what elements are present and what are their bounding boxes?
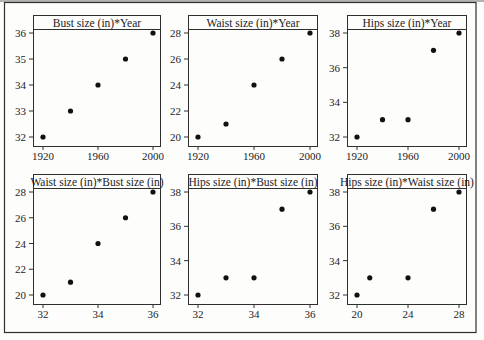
y-tick-label: 34 — [329, 255, 341, 267]
y-tick-label: 32 — [170, 289, 181, 301]
data-point — [456, 189, 461, 194]
data-point — [279, 207, 284, 212]
data-point — [95, 82, 100, 87]
data-point — [405, 117, 410, 122]
y-tick-label: 24 — [170, 79, 182, 91]
data-point — [223, 275, 228, 280]
y-tick-label: 33 — [15, 105, 27, 117]
plot-area — [348, 30, 467, 147]
plot-area — [189, 189, 318, 305]
x-tick-label: 20 — [352, 308, 364, 320]
plot-area — [34, 30, 161, 147]
data-point — [95, 241, 100, 246]
data-point — [354, 134, 359, 139]
data-point — [367, 275, 372, 280]
y-tick-label: 22 — [15, 263, 26, 275]
plot-area — [34, 189, 161, 305]
y-tick-label: 34 — [15, 79, 27, 91]
y-tick-label: 26 — [170, 53, 182, 65]
plot-area — [348, 189, 467, 305]
y-tick-label: 32 — [329, 131, 340, 143]
x-tick-label: 36 — [305, 308, 317, 320]
y-tick-label: 32 — [329, 289, 340, 301]
y-tick-label: 22 — [170, 105, 181, 117]
panel-title: Hips size (in)*Bust size (in) — [188, 176, 317, 189]
y-tick-label: 28 — [170, 27, 182, 39]
data-point — [307, 30, 312, 35]
data-point — [68, 280, 73, 285]
data-point — [251, 82, 256, 87]
y-tick-label: 24 — [15, 238, 27, 250]
x-tick-label: 34 — [93, 308, 105, 320]
y-tick-label: 36 — [170, 220, 182, 232]
plot-area — [189, 30, 318, 147]
y-tick-label: 20 — [15, 289, 27, 301]
data-point — [405, 275, 410, 280]
data-point — [307, 189, 312, 194]
x-tick-label: 1960 — [87, 150, 110, 162]
y-tick-label: 35 — [15, 53, 27, 65]
panel-hips-size-in-year: Hips size (in)*Year32343638192019602000 — [329, 16, 471, 163]
panel-title: Hips size (in)*Year — [363, 17, 452, 30]
data-point — [431, 207, 436, 212]
panel-waist-size-in-bust-size-in: Waist size (in)*Bust size (in)2022242628… — [15, 175, 164, 321]
data-point — [195, 134, 200, 139]
panel-title: Waist size (in)*Year — [206, 17, 299, 30]
y-tick-label: 34 — [170, 255, 182, 267]
y-tick-label: 28 — [15, 186, 27, 198]
data-point — [123, 215, 128, 220]
panel-title: Waist size (in)*Bust size (in) — [30, 176, 163, 189]
x-tick-label: 1960 — [397, 150, 420, 162]
scatter-plot-matrix: Bust size (in)*Year323334353619201960200… — [0, 0, 484, 340]
x-tick-label: 2000 — [299, 150, 322, 162]
x-tick-label: 28 — [454, 308, 466, 320]
data-point — [223, 121, 228, 126]
y-tick-label: 32 — [15, 131, 26, 143]
x-tick-label: 32 — [193, 308, 204, 320]
y-tick-label: 36 — [15, 27, 27, 39]
x-tick-label: 32 — [38, 308, 49, 320]
scatter-matrix-svg: Bust size (in)*Year323334353619201960200… — [0, 0, 484, 340]
y-tick-label: 38 — [170, 186, 182, 198]
panel-hips-size-in-waist-size-in: Hips size (in)*Waist size (in)3234363820… — [329, 175, 474, 321]
x-tick-label: 2000 — [142, 150, 165, 162]
x-tick-label: 24 — [403, 308, 415, 320]
panel-title: Bust size (in)*Year — [53, 17, 141, 30]
data-point — [431, 48, 436, 53]
data-point — [150, 189, 155, 194]
y-tick-label: 36 — [329, 220, 341, 232]
data-point — [150, 30, 155, 35]
x-tick-label: 2000 — [448, 150, 471, 162]
y-tick-label: 26 — [15, 212, 27, 224]
y-tick-label: 38 — [329, 27, 341, 39]
panel-waist-size-in-year: Waist size (in)*Year20222426281920196020… — [170, 16, 322, 163]
x-tick-label: 1960 — [243, 150, 266, 162]
data-point — [40, 292, 45, 297]
data-point — [68, 108, 73, 113]
y-tick-label: 36 — [329, 62, 341, 74]
x-tick-label: 34 — [249, 308, 261, 320]
y-tick-label: 20 — [170, 131, 182, 143]
data-point — [195, 292, 200, 297]
panel-bust-size-in-year: Bust size (in)*Year323334353619201960200… — [15, 16, 165, 163]
x-tick-label: 1920 — [346, 150, 369, 162]
y-tick-label: 38 — [329, 186, 341, 198]
data-point — [40, 134, 45, 139]
data-point — [279, 56, 284, 61]
x-tick-label: 1920 — [187, 150, 210, 162]
data-point — [354, 292, 359, 297]
x-tick-label: 1920 — [32, 150, 55, 162]
panel-title: Hips size (in)*Waist size (in) — [340, 176, 474, 189]
data-point — [380, 117, 385, 122]
data-point — [123, 56, 128, 61]
data-point — [251, 275, 256, 280]
x-tick-label: 36 — [148, 308, 160, 320]
data-point — [456, 30, 461, 35]
panel-hips-size-in-bust-size-in: Hips size (in)*Bust size (in)32343638323… — [170, 175, 318, 321]
y-tick-label: 34 — [329, 96, 341, 108]
